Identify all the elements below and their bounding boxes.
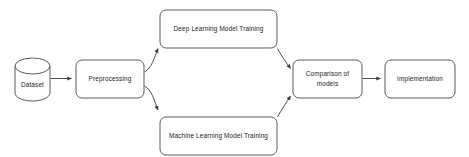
node-deep-learning-model-training[interactable]: Deep Learning Model Training (160, 10, 277, 48)
node-deep-learning-model-training-label: Deep Learning Model Training (174, 25, 264, 33)
node-machine-learning-model-training-label: Machine Learning Model Training (169, 132, 268, 140)
edge-deep-learning-to-comparison (278, 49, 291, 69)
node-comparison-of-models[interactable]: Comparison of models (293, 60, 362, 98)
diagram-canvas: Dataset Preprocessing Deep Learning Mode… (0, 0, 469, 157)
flowchart: Dataset Preprocessing Deep Learning Mode… (0, 0, 469, 157)
node-dataset[interactable]: Dataset (15, 58, 50, 101)
node-preprocessing[interactable]: Preprocessing (76, 60, 144, 98)
node-comparison-of-models-label-line1: Comparison of (306, 70, 350, 78)
node-preprocessing-label: Preprocessing (89, 75, 132, 83)
node-dataset-label: Dataset (21, 81, 44, 88)
edge-machine-learning-to-comparison (278, 96, 291, 117)
node-implementation-label: Implementation (397, 75, 443, 83)
node-implementation[interactable]: Implementation (385, 60, 455, 98)
edge-preprocessing-to-deep-learning (145, 49, 159, 73)
node-comparison-of-models-label-line2: models (317, 80, 339, 87)
node-machine-learning-model-training[interactable]: Machine Learning Model Training (160, 117, 277, 155)
edge-preprocessing-to-machine-learning (145, 86, 159, 110)
